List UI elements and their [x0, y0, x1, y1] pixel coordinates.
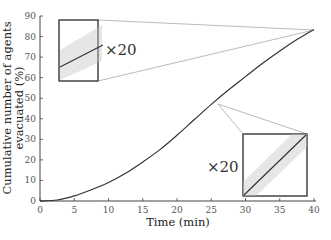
x-tick-label: 5	[71, 205, 77, 215]
y-tick-label: 50	[25, 93, 37, 103]
inset-zoom-label: ×20	[105, 41, 137, 59]
y-axis-label-line2: evacuated (%)	[12, 66, 26, 149]
y-tick-label: 40	[25, 114, 37, 124]
x-axis-label: Time (min)	[146, 215, 210, 229]
inset-lower-right: ×20	[207, 134, 307, 196]
inset2-connector-right	[218, 104, 307, 134]
x-tick-label: 0	[37, 205, 43, 215]
chart: 0102030405060708090 0510152025303540 ×20…	[0, 0, 331, 240]
x-tick-label: 10	[103, 205, 115, 215]
x-tick-label: 25	[206, 205, 218, 215]
y-tick-label: 10	[25, 175, 37, 185]
x-tick-label: 40	[308, 205, 320, 215]
y-tick-label: 90	[25, 11, 37, 21]
inset-upper-left: ×20	[59, 20, 137, 81]
y-tick-label: 30	[25, 134, 37, 144]
y-tick-label: 80	[25, 32, 37, 42]
x-tick-label: 35	[274, 205, 286, 215]
inset1-connector-top	[98, 20, 314, 30]
y-tick-label: 60	[25, 73, 37, 83]
inset-zoom-label: ×20	[207, 158, 239, 176]
x-tick-label: 30	[240, 205, 252, 215]
y-tick-label: 0	[30, 196, 36, 206]
y-tick-label: 70	[25, 52, 37, 62]
y-tick-label: 20	[25, 155, 37, 165]
x-tick-label: 15	[137, 205, 149, 215]
x-tick-label: 20	[171, 205, 183, 215]
